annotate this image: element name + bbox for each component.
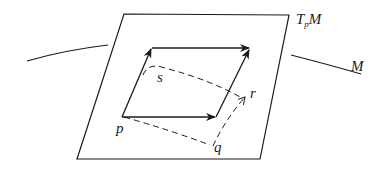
tangent-plane: [77, 14, 289, 159]
vector-lower-right-to-upper-right: [216, 50, 249, 117]
manifold-curve-left: [27, 45, 108, 61]
diagram-canvas: TpM M p q r s: [0, 0, 388, 170]
dashed-path-p-q: [124, 117, 210, 145]
vector-p-to-upper-left: [122, 49, 151, 117]
label-manifold: M: [351, 59, 364, 74]
label-tangent-plane: TpM: [296, 12, 321, 29]
label-q: q: [214, 140, 222, 155]
label-s: s: [157, 70, 163, 85]
diagram-svg: [0, 0, 388, 170]
label-r: r: [250, 86, 256, 101]
label-p: p: [116, 121, 124, 136]
